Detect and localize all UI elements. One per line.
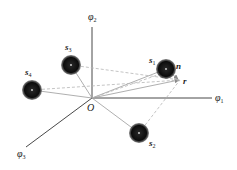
vector-label-r: r [183,76,187,86]
vector-space-diagram: O φ1 φ2 φ3 s1 s2 s3 [0,0,237,170]
sphere-s4-center [31,89,33,91]
sphere-label-s1: s1 [148,55,156,66]
axis-label-phi2: φ2 [88,11,97,23]
diagram-canvas: O φ1 φ2 φ3 s1 s2 s3 [0,0,237,170]
vector-label-n: n [176,61,181,71]
sphere-label-s2: s2 [148,138,156,149]
dash-s2-r [139,80,180,133]
axis-label-phi1: φ1 [215,92,224,104]
axis-label-phi3: φ3 [17,148,26,160]
sphere-s2-center [138,132,140,134]
labels: O φ1 φ2 φ3 s1 s2 s3 [17,11,224,160]
sphere-s1-center [165,68,167,70]
axis-phi3 [26,98,92,147]
sphere-label-s3: s3 [64,42,72,53]
sphere-s3-center [70,64,72,66]
solid-rays [32,65,179,133]
dashed-lines [32,65,180,133]
origin-label: O [87,102,94,113]
sphere-label-s4: s4 [24,67,32,78]
spheres [22,55,176,143]
dash-s4-r [32,80,180,90]
